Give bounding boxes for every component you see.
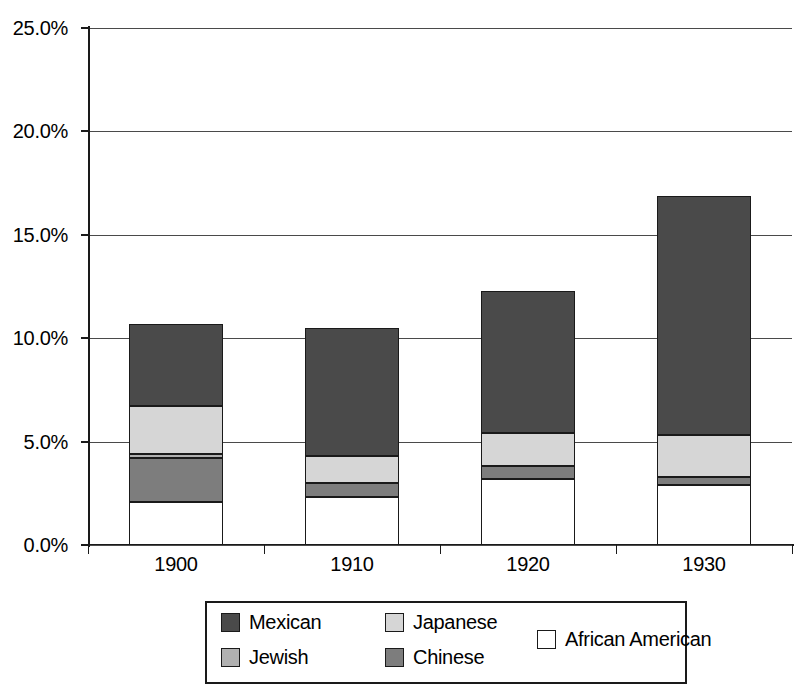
plot-area: 0.0%5.0%10.0%15.0%20.0%25.0% 19001910192… [88,28,792,545]
x-axis-label-1900: 1900 [116,553,236,575]
chart-legend: MexicanJapaneseJewishChineseAfrican Amer… [205,601,687,684]
y-axis-tick [81,441,90,443]
bar-segment-1920-mexican [481,291,575,434]
y-axis-tick-label: 25.0% [0,18,68,38]
legend-item-jewish[interactable]: Jewish [221,647,308,667]
legend-swatch-icon [537,630,556,649]
bar-segment-1920-chinese [481,466,575,478]
bar-segment-1900-chinese [129,458,223,501]
bar-segment-1910-chinese [305,483,399,497]
bar-segment-1920-japanese [481,433,575,466]
x-axis-tick [440,545,441,554]
y-axis-tick [81,234,90,236]
legend-swatch-icon [221,613,240,632]
x-axis-label-1920: 1920 [468,553,588,575]
x-axis-label-1910: 1910 [292,553,412,575]
stacked-bar-chart: 0.0%5.0%10.0%15.0%20.0%25.0% 19001910192… [0,0,805,690]
bar-segment-1900-japanese [129,406,223,454]
bar-1910 [305,28,399,545]
y-axis-tick-label: 15.0% [0,225,68,245]
bar-segment-1910-african-american [305,497,399,545]
legend-label: African American [565,629,711,649]
bar-segment-1910-mexican [305,328,399,456]
legend-item-japanese[interactable]: Japanese [385,612,497,632]
legend-swatch-icon [221,648,240,667]
y-axis-tick-label: 20.0% [0,121,68,141]
legend-swatch-icon [385,613,404,632]
bar-segment-1930-chinese [657,477,751,485]
bar-segment-1910-japanese [305,456,399,483]
bar-segment-1900-jewish [129,454,223,458]
legend-label: Chinese [413,647,484,667]
bar-1930 [657,28,751,545]
legend-label: Jewish [249,647,308,667]
legend-item-african-american[interactable]: African American [537,629,711,649]
y-axis-tick-label: 10.0% [0,328,68,348]
bar-segment-1930-african-american [657,485,751,545]
bar-segment-1920-african-american [481,479,575,545]
x-axis-tick [616,545,617,554]
legend-item-chinese[interactable]: Chinese [385,647,484,667]
x-axis-label-1930: 1930 [644,553,764,575]
y-axis-tick-label: 0.0% [0,535,68,555]
x-axis-tick [264,545,265,554]
x-axis-tick [88,545,89,554]
bar-segment-1930-japanese [657,435,751,476]
x-axis-tick [792,545,793,554]
legend-label: Japanese [413,612,497,632]
y-axis-tick [81,337,90,339]
bar-segment-1930-mexican [657,196,751,436]
y-axis-tick-label: 5.0% [0,432,68,452]
y-axis-tick [81,130,90,132]
legend-item-mexican[interactable]: Mexican [221,612,321,632]
legend-swatch-icon [385,648,404,667]
legend-label: Mexican [249,612,321,632]
y-axis-tick [81,27,90,29]
bar-1900 [129,28,223,545]
bar-segment-1900-african-american [129,502,223,545]
bar-segment-1900-mexican [129,324,223,407]
bar-1920 [481,28,575,545]
